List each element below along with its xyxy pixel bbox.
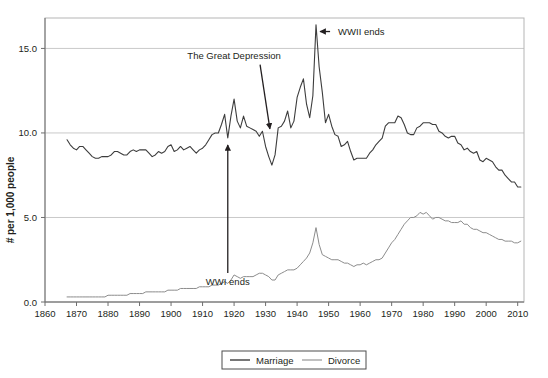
annotation-label-great-depression: The Great Depression (187, 50, 280, 61)
x-axis-tick-label: 1990 (444, 308, 465, 319)
annotation-label-wwii-ends: WWII ends (338, 26, 385, 37)
legend-label-divorce: Divorce (328, 355, 360, 366)
chart-legend: MarriageDivorce (222, 351, 366, 369)
x-axis-tick-label: 1920 (224, 308, 245, 319)
x-axis-tick-label: 1910 (192, 308, 213, 319)
x-axis-tick-label: 1950 (318, 308, 339, 319)
y-axis-tick-label: 10.0 (19, 127, 38, 138)
marriage-divorce-rate-chart: 0.05.010.015.0 1860187018801890190019101… (0, 0, 548, 378)
x-axis-tick-label: 1980 (413, 308, 434, 319)
x-axis-tick-label: 1880 (97, 308, 118, 319)
y-axis-tick-label: 0.0 (24, 297, 37, 308)
x-axis-tick-label: 2000 (476, 308, 497, 319)
x-axis-tick-label: 2010 (507, 308, 528, 319)
x-axis-tick-label: 1860 (34, 308, 55, 319)
legend-label-marriage: Marriage (256, 355, 294, 366)
y-axis-tick-label: 15.0 (19, 43, 38, 54)
x-axis-tick-label: 1970 (381, 308, 402, 319)
x-axis-tick-label: 1900 (160, 308, 181, 319)
annotation-label-wwi-ends: WWI ends (206, 276, 250, 287)
x-axis-tick-label: 1960 (350, 308, 371, 319)
x-axis-tick-label: 1870 (66, 308, 87, 319)
y-axis-tick-label: 5.0 (24, 212, 37, 223)
x-axis-tick-label: 1930 (255, 308, 276, 319)
x-axis-tick-label: 1940 (287, 308, 308, 319)
chart-canvas: 0.05.010.015.0 1860187018801890190019101… (0, 0, 548, 378)
x-axis-tick-label: 1890 (129, 308, 150, 319)
y-axis-title: # per 1,000 people (5, 156, 16, 243)
